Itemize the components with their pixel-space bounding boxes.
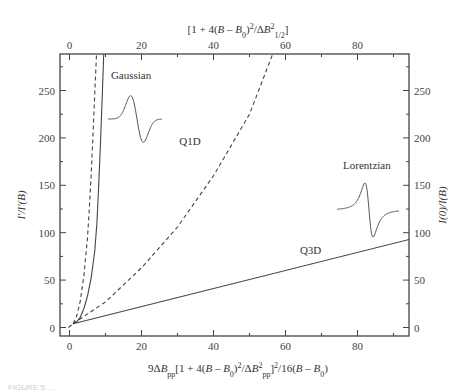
y2-tick-label: 50 bbox=[414, 274, 426, 286]
ticks: 0204060800204060800050501001001501502002… bbox=[39, 39, 432, 352]
y-axis-title: I'/I'(B) bbox=[15, 190, 28, 220]
y-tick-label: 0 bbox=[50, 322, 56, 334]
series bbox=[68, 55, 409, 328]
y-tick-label: 150 bbox=[39, 179, 56, 191]
lorentzian-inset-curve bbox=[337, 183, 399, 237]
x2-tick-label: 20 bbox=[136, 39, 148, 51]
gaussian-inset-curve bbox=[108, 96, 162, 143]
y2-tick-label: 200 bbox=[414, 132, 431, 144]
x-tick-label: 40 bbox=[208, 340, 220, 352]
annotation-q1d: Q1D bbox=[179, 135, 200, 147]
series-line-gaussian-dashed- bbox=[73, 55, 96, 324]
series-line-q3d bbox=[73, 239, 410, 323]
series-line-q1d bbox=[73, 55, 272, 324]
y2-axis-title: I(0)/I(B) bbox=[436, 186, 449, 225]
x-axis-title: 9ΔBpp[1 + 4(B – B0)2/ΔB2pp]2/16(B – B0) bbox=[148, 361, 328, 379]
x2-tick-label: 0 bbox=[67, 39, 73, 51]
x2-tick-label: 80 bbox=[352, 39, 364, 51]
x2-tick-label: 40 bbox=[208, 39, 220, 51]
annotation-lorentzian: Lorentzian bbox=[343, 159, 391, 171]
y-tick-label: 50 bbox=[44, 274, 56, 286]
x-tick-label: 20 bbox=[136, 340, 148, 352]
y2-tick-label: 250 bbox=[414, 85, 431, 97]
labels: GaussianQ1DLorentzianQ3D bbox=[111, 69, 391, 255]
plot-border bbox=[60, 54, 409, 336]
x2-tick-label: 60 bbox=[280, 39, 292, 51]
annotation-q3d: Q3D bbox=[300, 244, 321, 256]
y2-tick-label: 100 bbox=[414, 227, 431, 239]
y2-tick-label: 150 bbox=[414, 179, 431, 191]
y-tick-label: 250 bbox=[39, 85, 56, 97]
annotation-gaussian: Gaussian bbox=[111, 69, 152, 81]
series-line-gaussian-solid- bbox=[73, 55, 104, 324]
figure-caption: FIGURE 5.… bbox=[8, 383, 55, 391]
x-tick-label: 0 bbox=[67, 340, 73, 352]
chart: 0204060800204060800050501001001501502002… bbox=[0, 0, 468, 391]
x2-axis-title: [1 + 4(B – B0)2/ΔB21/2] bbox=[188, 22, 289, 40]
x-tick-label: 60 bbox=[280, 340, 292, 352]
plot-frame bbox=[60, 54, 409, 336]
y-tick-label: 100 bbox=[39, 227, 56, 239]
series-line-low-x-dashed-lead-in bbox=[68, 324, 73, 328]
x-tick-label: 80 bbox=[352, 340, 364, 352]
y2-tick-label: 0 bbox=[414, 322, 420, 334]
y-tick-label: 200 bbox=[39, 132, 56, 144]
